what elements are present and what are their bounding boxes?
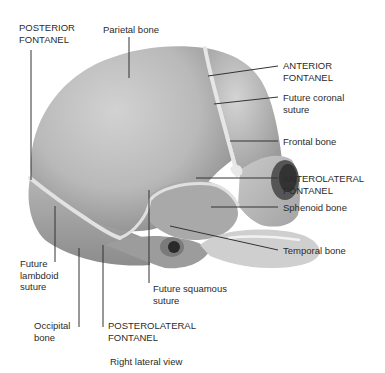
label-parietal-bone: Parietal bone	[103, 24, 159, 36]
label-posterolateral-fontanel: POSTEROLATERAL FONTANEL	[108, 320, 196, 343]
label-future-squamous-suture: Future squamous suture	[153, 283, 227, 306]
label-frontal-bone: Frontal bone	[283, 136, 336, 148]
label-future-lambdoid-suture: Future lambdoid suture	[20, 258, 59, 293]
label-anterolateral-fontanel: ANTEROLATERAL FONTANEL	[283, 173, 364, 196]
label-posterior-fontanel: POSTERIOR FONTANEL	[19, 22, 75, 45]
label-sphenoid-bone: Sphenoid bone	[283, 202, 347, 214]
label-occipital-bone: Occipital bone	[34, 320, 70, 343]
anterolateral-fontanel-patch	[230, 165, 242, 176]
label-anterior-fontanel: ANTERIOR FONTANEL	[283, 60, 333, 83]
label-future-coronal-suture: Future coronal suture	[283, 92, 344, 115]
label-temporal-bone: Temporal bone	[283, 245, 346, 257]
caption: Right lateral view	[110, 356, 182, 368]
